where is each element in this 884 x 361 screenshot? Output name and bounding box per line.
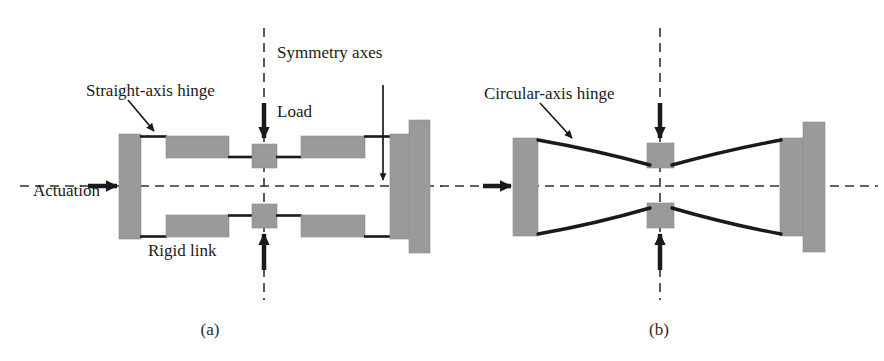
left-actuation-block [119,134,141,239]
label-rigid-link: Rigid link [148,241,217,260]
leader-arrow-icon-circular-hinge [540,103,572,138]
panel-a-group: Straight-axis hinge Symmetry axes Load A… [20,28,442,339]
center-block-lower [252,204,277,228]
compliant-mechanism-figure: Straight-axis hinge Symmetry axes Load A… [0,0,884,361]
panel-b-group: Circular-axis hinge (b) [440,28,878,339]
center-block-upper [252,144,277,168]
label-straight-axis-hinge: Straight-axis hinge [86,81,215,100]
circular-hinge-upper-left [538,140,650,165]
rigid-link-lower-right [301,215,365,237]
right-inner-block [390,134,410,239]
label-load: Load [277,102,312,121]
leader-arrow-icon-straight-hinge [128,100,154,131]
rigid-link-upper-right [301,136,365,158]
rigid-link-upper-left [166,136,229,158]
right-ground-block-b [803,122,825,252]
right-inner-block-b [780,138,804,236]
label-symmetry-axes: Symmetry axes [277,43,382,62]
figure-canvas: Straight-axis hinge Symmetry axes Load A… [0,0,884,361]
circular-hinge-lower-right [672,208,781,234]
circular-hinge-lower-left [538,208,650,234]
right-ground-block [409,120,430,253]
caption-panel-b: (b) [649,320,669,339]
caption-panel-a: (a) [201,320,220,339]
label-circular-axis-hinge: Circular-axis hinge [484,84,614,103]
rigid-link-lower-left [166,215,229,237]
label-actuation: Actuation [33,181,101,200]
circular-hinge-upper-right [672,140,781,165]
left-actuation-block-b [513,138,538,236]
